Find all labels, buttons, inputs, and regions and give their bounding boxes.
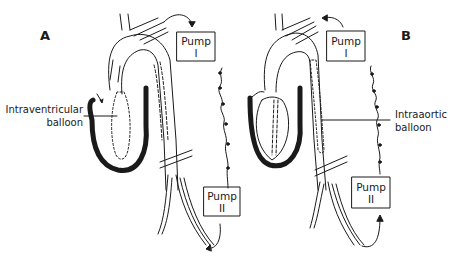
- intraventricular-balloon: [112, 92, 130, 159]
- counterpulsation-diagram: A B Intraventricular balloon Intraaortic…: [0, 0, 453, 259]
- pump-ii-numeral-b: II: [368, 193, 374, 205]
- panel-a: [84, 14, 240, 251]
- pump-i-numeral-b: I: [344, 47, 347, 59]
- pump-i-label-a: Pump: [181, 35, 211, 47]
- ventricle-wall-b: [250, 88, 300, 166]
- callout-intraventricular-line2: balloon: [46, 117, 83, 128]
- ecg-trace-a: [219, 68, 228, 188]
- pump-i-label-b: Pump: [331, 35, 361, 47]
- pump-ii-numeral-a: II: [219, 202, 225, 214]
- panel-b: [250, 14, 390, 247]
- pump-i-numeral-a: I: [194, 47, 197, 59]
- aorta-outer-a: [109, 34, 178, 190]
- panel-label-b: B: [401, 28, 411, 43]
- panel-label-a: A: [40, 28, 50, 43]
- callout-intraaortic-line1: Intraaortic: [395, 109, 447, 120]
- callout-intraaortic-line2: balloon: [395, 122, 432, 133]
- pump-ii-label-b: Pump: [356, 181, 386, 193]
- pump-ii-label-a: Pump: [207, 190, 237, 202]
- callout-intraventricular-line1: Intraventricular: [5, 104, 83, 115]
